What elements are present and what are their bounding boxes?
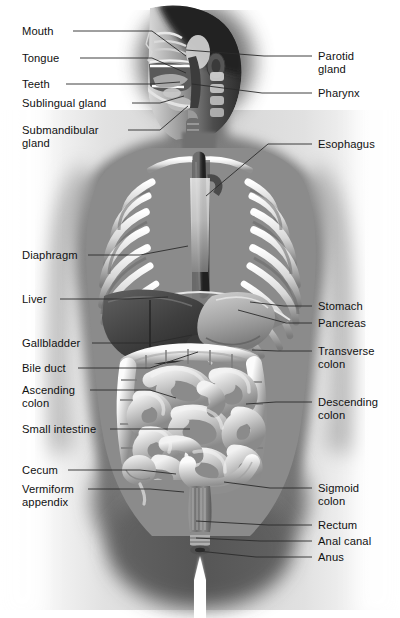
label-esophagus: Esophagus — [318, 138, 375, 151]
label-vermiform-appendix: Vermiform appendix — [22, 483, 74, 508]
rectum-anal-canal-anus — [189, 486, 212, 555]
label-small-intestine: Small intestine — [22, 423, 96, 436]
label-liver: Liver — [22, 293, 47, 306]
label-anal-canal: Anal canal — [318, 535, 371, 548]
label-sublingual-gland: Sublingual gland — [22, 97, 106, 110]
label-submandibular-gland: Submandibular gland — [22, 124, 99, 149]
label-tongue: Tongue — [22, 52, 59, 65]
label-pharynx: Pharynx — [318, 87, 360, 100]
label-anus: Anus — [318, 551, 344, 564]
anatomy-figure: MouthTongueTeethSublingual glandSubmandi… — [0, 0, 400, 618]
label-mouth: Mouth — [22, 25, 54, 38]
label-pancreas: Pancreas — [318, 317, 366, 330]
label-stomach: Stomach — [318, 300, 363, 313]
label-sigmoid-colon: Sigmoid colon — [318, 482, 359, 507]
label-gallbladder: Gallbladder — [22, 337, 80, 350]
label-transverse-colon: Transverse colon — [318, 345, 375, 370]
label-bile-duct: Bile duct — [22, 362, 66, 375]
label-cecum: Cecum — [22, 464, 58, 477]
label-parotid-gland: Parotid gland — [318, 50, 354, 75]
label-diaphragm: Diaphragm — [22, 249, 78, 262]
label-rectum: Rectum — [318, 519, 357, 532]
label-ascending-colon: Ascending colon — [22, 384, 75, 409]
label-teeth: Teeth — [22, 78, 50, 91]
label-descending-colon: Descending colon — [318, 396, 378, 421]
torso-contents — [80, 140, 320, 540]
